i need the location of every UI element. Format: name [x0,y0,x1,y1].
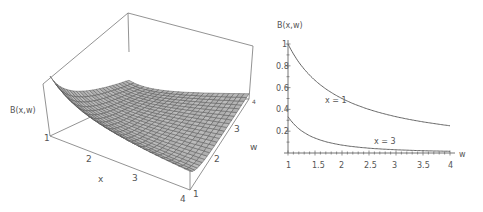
x-tick-3: 3 [132,173,138,183]
curve-label-x3: x = 3 [374,137,396,146]
x-axis-label: w [459,150,466,159]
x-tick-4: 4 [448,161,453,170]
w-tick-2: 2 [214,154,220,164]
w-tick-4: 4 [252,98,256,105]
x-tick-1: 1 [44,133,50,143]
figure: 1 2 3 4 x 1 2 3 4 w B(x,w) B(x,w) 0.2 0.… [0,0,483,212]
x-tick-3: 3 [392,161,397,170]
z-axis-label: B(x,w) [10,106,36,115]
x-tick-2: 2 [339,161,344,170]
y-tick-1: 1 [282,40,287,49]
y-tick-0.4: 0.4 [276,105,289,114]
y-axis-label: B(x,w) [277,21,303,30]
curve-x1 [288,44,450,126]
x-tick-3.5: 3.5 [417,161,430,170]
x-tick-1.5: 1.5 [312,161,325,170]
y-tick-0.2: 0.2 [276,127,289,136]
x-tick-2.5: 2.5 [364,161,377,170]
w-axis-label: w [250,142,257,152]
axis-ticks [286,44,451,156]
x-axis-label: x [98,174,104,184]
line-plot: B(x,w) 0.2 0.4 0.6 0.8 1 1 1.5 2 2.5 3 3… [276,21,466,170]
w-tick-1: 1 [193,189,199,199]
x-tick-2: 2 [86,154,92,164]
x-tick-1: 1 [286,161,291,170]
surface-plot: 1 2 3 4 x 1 2 3 4 w B(x,w) [10,13,257,204]
y-tick-0.8: 0.8 [276,62,289,71]
x-tick-4: 4 [180,194,186,204]
y-tick-0.6: 0.6 [276,84,289,93]
w-tick-3: 3 [234,124,240,134]
curve-label-x1: x = 1 [325,96,347,105]
